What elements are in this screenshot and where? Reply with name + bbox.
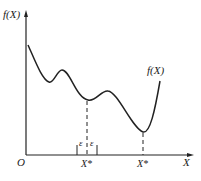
epsilon-right-label: ε: [90, 138, 94, 148]
curve-label: f(X): [147, 64, 164, 77]
x-axis-label: X: [182, 156, 191, 168]
epsilon-left-label: ε: [79, 138, 83, 148]
local-min-label: X*: [80, 158, 92, 169]
y-axis-label: f(X): [3, 8, 20, 21]
global-min-label: X*: [136, 158, 148, 169]
function-curve: [28, 45, 160, 132]
y-axis-arrow-icon: [24, 10, 28, 17]
origin-label: O: [17, 156, 25, 168]
function-plot: f(X) f(X) O X ε ε X* X*: [0, 0, 201, 181]
diagram-canvas: f(X) f(X) O X ε ε X* X*: [0, 0, 201, 181]
